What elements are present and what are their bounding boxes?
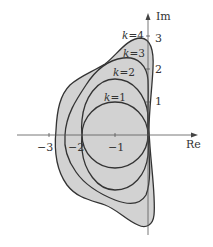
x-tick-label-minus2: −2: [68, 142, 84, 153]
y-tick-label-3: 3: [155, 33, 162, 44]
y-tick-label-1: 1: [155, 96, 162, 107]
curve-label-k1: k=1: [104, 92, 126, 103]
stability-region-diagram: [0, 0, 213, 247]
region-k4: [55, 38, 154, 227]
curve-label-k3: k=3: [123, 48, 145, 59]
x-tick-label-minus1: −1: [108, 142, 124, 153]
curve-label-k4: k=4: [122, 30, 144, 41]
real-axis-label: Re: [186, 139, 201, 150]
x-tick-label-minus3: −3: [37, 142, 53, 153]
curve-label-k2: k=2: [113, 67, 135, 78]
real-axis-arrow-icon: [191, 133, 198, 138]
imaginary-axis-label: Im: [156, 11, 171, 22]
y-tick-label-2: 2: [155, 64, 162, 75]
imaginary-axis-arrow-icon: [146, 13, 151, 20]
